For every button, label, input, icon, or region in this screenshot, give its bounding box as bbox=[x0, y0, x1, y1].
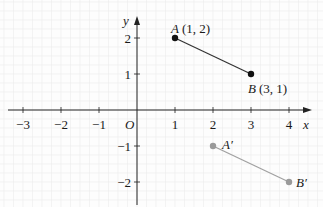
label-B-prime: B′ bbox=[296, 175, 307, 190]
point-B-prime bbox=[286, 179, 292, 185]
point-A-prime bbox=[210, 143, 216, 149]
label-A-prime: A′ bbox=[221, 137, 233, 152]
x-tick-label: 4 bbox=[286, 117, 293, 132]
grid-lines bbox=[0, 0, 323, 207]
y-tick-label: 2 bbox=[125, 31, 132, 46]
diagram-svg: −3−2−1123421−1−2 x y O A(1, 2) B(3, 1) A… bbox=[0, 0, 323, 207]
x-axis-label: x bbox=[302, 117, 309, 132]
label-B: B(3, 1) bbox=[248, 81, 287, 96]
x-tick-label: 3 bbox=[248, 117, 255, 132]
x-tick-label: −3 bbox=[16, 117, 30, 132]
x-tick-label: 2 bbox=[210, 117, 217, 132]
label-A: A(1, 2) bbox=[170, 21, 210, 36]
origin-label: O bbox=[125, 117, 135, 132]
point-B bbox=[248, 71, 254, 77]
coordinate-plane-diagram: −3−2−1123421−1−2 x y O A(1, 2) B(3, 1) A… bbox=[0, 0, 323, 207]
y-tick-label: −1 bbox=[117, 139, 131, 154]
x-axis-arrow-icon bbox=[303, 107, 312, 113]
y-axis-label: y bbox=[121, 13, 129, 28]
x-tick-label: −1 bbox=[92, 117, 106, 132]
y-axis-arrow-icon bbox=[134, 16, 140, 25]
y-tick-label: −2 bbox=[117, 175, 131, 190]
x-tick-label: 1 bbox=[172, 117, 179, 132]
x-tick-label: −2 bbox=[54, 117, 68, 132]
y-tick-label: 1 bbox=[125, 67, 132, 82]
